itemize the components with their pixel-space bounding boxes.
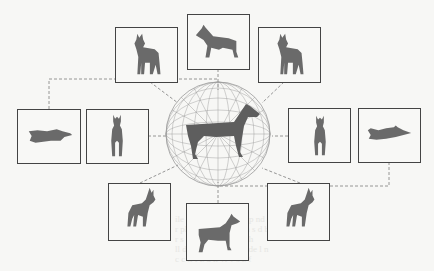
wireframe-sphere xyxy=(164,80,272,188)
dog-front-view-icon xyxy=(111,115,123,156)
dog-side-profile-icon xyxy=(199,214,241,253)
view-middle-left-inner xyxy=(86,109,149,164)
dog-side-profile-icon xyxy=(196,25,238,58)
dog-front-three-quarter-icon xyxy=(277,34,303,75)
view-top-right xyxy=(258,27,321,83)
view-middle-left-outer xyxy=(17,109,81,164)
view-bottom-left xyxy=(108,183,171,241)
multi-view-diagram: ile ad ra nl le al dl n p nd t pr ss g r… xyxy=(0,0,434,271)
dog-model-icon xyxy=(186,104,260,159)
dog-top-down-icon xyxy=(29,129,72,142)
view-bottom-center xyxy=(186,203,249,261)
dog-front-view-icon xyxy=(314,116,326,156)
view-middle-right-inner xyxy=(288,108,351,163)
dog-front-three-quarter-icon xyxy=(127,188,155,227)
view-middle-right-outer xyxy=(358,108,421,163)
view-top-left xyxy=(115,27,178,83)
view-bottom-right xyxy=(267,183,330,241)
dog-front-three-quarter-icon xyxy=(134,34,160,75)
dog-front-three-quarter-icon xyxy=(286,188,314,227)
dog-top-down-icon xyxy=(368,125,411,139)
view-top-center xyxy=(187,14,250,70)
